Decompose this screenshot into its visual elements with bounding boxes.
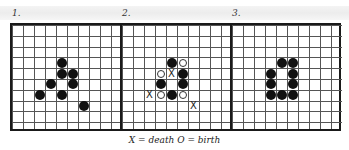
grid-cell	[155, 90, 166, 101]
grid-cell	[34, 90, 45, 101]
grid-cell	[155, 79, 166, 90]
death-x-icon: X	[146, 90, 153, 100]
top-band	[0, 6, 349, 20]
grid-cell	[177, 68, 188, 79]
grid-cell	[265, 90, 276, 101]
grid-cell: X	[188, 101, 199, 112]
birth-circle-icon	[179, 59, 187, 67]
live-cell-dot-icon	[288, 69, 298, 79]
grid-cell	[67, 68, 78, 79]
grid-panel-3	[232, 25, 342, 129]
live-cell-dot-icon	[57, 58, 67, 68]
grid-cell	[287, 79, 298, 90]
grid-cell: X	[144, 90, 155, 101]
live-cell-dot-icon	[277, 58, 287, 68]
live-cell-dot-icon	[79, 101, 89, 111]
grid-cell	[166, 57, 177, 68]
grid-cell	[56, 68, 67, 79]
grid-cell	[265, 68, 276, 79]
panel-label-2: 2.	[122, 8, 131, 18]
live-cell-dot-icon	[266, 69, 276, 79]
live-cell-dot-icon	[68, 79, 78, 89]
grid-cell	[155, 68, 166, 79]
live-cell-dot-icon	[156, 79, 166, 89]
grid-cell	[287, 90, 298, 101]
grid-cell	[67, 79, 78, 90]
live-cell-dot-icon	[167, 90, 177, 100]
panel-label-1: 1.	[12, 8, 21, 18]
live-cell-dot-icon	[288, 79, 298, 89]
panel-label-3: 3.	[232, 8, 241, 18]
live-cell-dot-icon	[35, 90, 45, 100]
grid-cell	[56, 57, 67, 68]
grid-cell	[287, 68, 298, 79]
live-cell-dot-icon	[266, 90, 276, 100]
birth-circle-icon	[179, 91, 187, 99]
grid-cell	[177, 90, 188, 101]
live-cell-dot-icon	[57, 69, 67, 79]
live-cell-dot-icon	[277, 90, 287, 100]
grid-cell: X	[166, 68, 177, 79]
grid-cell	[177, 57, 188, 68]
death-x-icon: X	[168, 69, 175, 79]
grid-cell	[78, 101, 89, 112]
live-cell-dot-icon	[46, 79, 56, 89]
live-cell-dot-icon	[288, 58, 298, 68]
live-cell-dot-icon	[178, 79, 188, 89]
death-x-icon: X	[190, 101, 197, 111]
legend-caption: X = death O = birth	[0, 135, 349, 145]
live-cell-dot-icon	[68, 69, 78, 79]
grid-cell	[265, 79, 276, 90]
live-cell-dot-icon	[266, 79, 276, 89]
live-cell-dot-icon	[178, 69, 188, 79]
live-cell-dot-icon	[167, 58, 177, 68]
grid-cell	[287, 57, 298, 68]
grid-panel-1	[12, 25, 122, 129]
grid-cell	[56, 90, 67, 101]
grid-cell	[276, 90, 287, 101]
grid-cell	[276, 57, 287, 68]
live-cell-dot-icon	[57, 90, 67, 100]
grid-cell	[166, 90, 177, 101]
live-cell-dot-icon	[288, 90, 298, 100]
grid-cell	[45, 79, 56, 90]
grid-cell	[177, 79, 188, 90]
life-board: XXX	[10, 23, 341, 131]
grid-panel-2: XXX	[122, 25, 232, 129]
birth-circle-icon	[157, 91, 165, 99]
birth-circle-icon	[157, 70, 165, 78]
